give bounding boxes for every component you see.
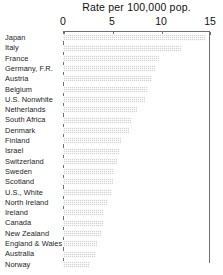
bar-row bbox=[63, 218, 210, 228]
category-label: England & Wales bbox=[5, 239, 62, 249]
bar-row bbox=[63, 229, 210, 239]
bar-row bbox=[63, 115, 210, 125]
bar bbox=[63, 117, 131, 124]
bar bbox=[63, 220, 103, 227]
category-label: Germany, F.R. bbox=[5, 64, 53, 74]
bar bbox=[63, 209, 104, 216]
bar bbox=[63, 178, 113, 185]
category-label: South Africa bbox=[5, 115, 45, 125]
category-label: U.S. Nonwhite bbox=[5, 95, 53, 105]
bar-row bbox=[63, 260, 210, 270]
bar-row bbox=[63, 208, 210, 218]
bar bbox=[63, 168, 114, 175]
bar bbox=[63, 34, 206, 41]
x-tick-label: 15 bbox=[204, 15, 216, 27]
category-label: France bbox=[5, 54, 28, 64]
category-label: North Ireland bbox=[5, 198, 48, 208]
category-label: Norway bbox=[5, 260, 30, 270]
bar bbox=[63, 158, 117, 165]
x-tick-label: 0 bbox=[60, 15, 66, 27]
bar bbox=[63, 75, 152, 82]
category-label: Belgium bbox=[5, 85, 32, 95]
bar-row bbox=[63, 85, 210, 95]
bar-row bbox=[63, 105, 210, 115]
bar-row bbox=[63, 249, 210, 259]
category-labels: JapanItalyFranceGermany, F.R.AustriaBelg… bbox=[0, 33, 60, 263]
bar-row bbox=[63, 43, 210, 53]
category-label: Finland bbox=[5, 136, 30, 146]
bar bbox=[63, 251, 96, 258]
chart-title: Rate per 100,000 pop. bbox=[63, 1, 210, 13]
bar bbox=[63, 189, 112, 196]
bar-row bbox=[63, 126, 210, 136]
category-label: Austria bbox=[5, 74, 28, 84]
bar bbox=[63, 96, 145, 103]
bar bbox=[63, 65, 156, 72]
bar-row bbox=[63, 239, 210, 249]
bar bbox=[63, 86, 148, 93]
bars-layer bbox=[63, 33, 210, 263]
bar bbox=[63, 137, 121, 144]
x-tick-label: 10 bbox=[155, 15, 167, 27]
category-label: Sweden bbox=[5, 167, 32, 177]
x-axis-tick-labels: 051015 bbox=[0, 15, 223, 28]
category-label: Australia bbox=[5, 249, 34, 259]
bar bbox=[63, 230, 102, 237]
category-label: Ireland bbox=[5, 208, 28, 218]
bar-row bbox=[63, 95, 210, 105]
bar-row bbox=[63, 198, 210, 208]
category-label: Israel bbox=[5, 146, 23, 156]
bar-row bbox=[63, 188, 210, 198]
category-label: Japan bbox=[5, 33, 25, 43]
bar-row bbox=[63, 64, 210, 74]
x-tick-mark bbox=[210, 32, 211, 35]
bar-chart: Rate per 100,000 pop. 051015 JapanItalyF… bbox=[0, 0, 223, 275]
bar-row bbox=[63, 146, 210, 156]
category-label: Switzerland bbox=[5, 157, 44, 167]
category-label: Italy bbox=[5, 43, 19, 53]
category-label: Canada bbox=[5, 218, 31, 228]
category-label: Denmark bbox=[5, 126, 35, 136]
x-tick-label: 5 bbox=[109, 15, 115, 27]
bar-row bbox=[63, 136, 210, 146]
bar-row bbox=[63, 177, 210, 187]
bar bbox=[63, 261, 90, 268]
bar-row bbox=[63, 54, 210, 64]
category-label: U.S., White bbox=[5, 188, 43, 198]
bar bbox=[63, 199, 108, 206]
category-label: Scotland bbox=[5, 177, 34, 187]
category-label: New Zealand bbox=[5, 229, 49, 239]
bar bbox=[63, 127, 129, 134]
bar bbox=[63, 240, 97, 247]
bar bbox=[63, 106, 137, 113]
bar bbox=[63, 55, 159, 62]
bar bbox=[63, 148, 119, 155]
bar-row bbox=[63, 33, 210, 43]
bar-row bbox=[63, 157, 210, 167]
category-label: Netherlands bbox=[5, 105, 45, 115]
bar-row bbox=[63, 167, 210, 177]
bar-row bbox=[63, 74, 210, 84]
bar bbox=[63, 45, 182, 52]
